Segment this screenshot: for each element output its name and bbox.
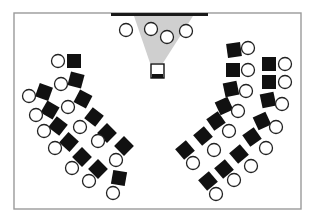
seat-marker: [114, 136, 134, 156]
person-marker: [66, 162, 79, 175]
person-marker: [161, 31, 174, 44]
person-marker: [55, 78, 68, 91]
person-marker: [23, 90, 36, 103]
person-marker: [242, 42, 255, 55]
seat-marker: [229, 144, 249, 164]
seat-marker: [84, 107, 104, 127]
seat-marker: [262, 57, 276, 71]
person-marker: [120, 24, 133, 37]
person-marker: [110, 154, 123, 167]
seat-marker: [67, 71, 84, 88]
person-marker: [52, 55, 65, 68]
person-marker: [145, 23, 158, 36]
person-marker: [260, 142, 273, 155]
seating-diagram: [0, 0, 311, 217]
seat-marker: [193, 126, 213, 146]
person-marker: [270, 121, 283, 134]
seat-marker: [226, 42, 242, 58]
person-marker: [276, 98, 289, 111]
left-seating-group: [23, 54, 134, 200]
seat-marker: [223, 81, 240, 98]
seat-marker: [262, 75, 276, 89]
person-marker: [240, 85, 253, 98]
person-marker: [279, 58, 292, 71]
person-marker: [245, 160, 258, 173]
person-marker: [83, 175, 96, 188]
person-marker: [187, 157, 200, 170]
person-marker: [242, 64, 255, 77]
person-marker: [223, 125, 236, 138]
person-marker: [74, 121, 87, 134]
person-marker: [49, 142, 62, 155]
person-marker: [107, 187, 120, 200]
person-marker: [208, 144, 221, 157]
seat-marker: [226, 63, 240, 77]
right-seating-group: [175, 42, 291, 201]
seat-marker: [48, 116, 68, 136]
seat-marker: [253, 112, 272, 131]
seat-marker: [67, 54, 81, 68]
person-marker: [210, 188, 223, 201]
seat-marker: [260, 92, 277, 109]
person-marker: [232, 105, 245, 118]
person-marker: [30, 109, 43, 122]
person-marker: [228, 174, 241, 187]
projector-icon: [151, 64, 164, 78]
projector-base: [152, 74, 163, 78]
person-marker: [279, 76, 292, 89]
seat-marker: [35, 83, 53, 101]
person-marker: [92, 135, 105, 148]
person-marker: [38, 125, 51, 138]
seat-marker: [74, 90, 93, 109]
person-marker: [180, 25, 193, 38]
seat-marker: [111, 170, 127, 186]
person-marker: [62, 101, 75, 114]
